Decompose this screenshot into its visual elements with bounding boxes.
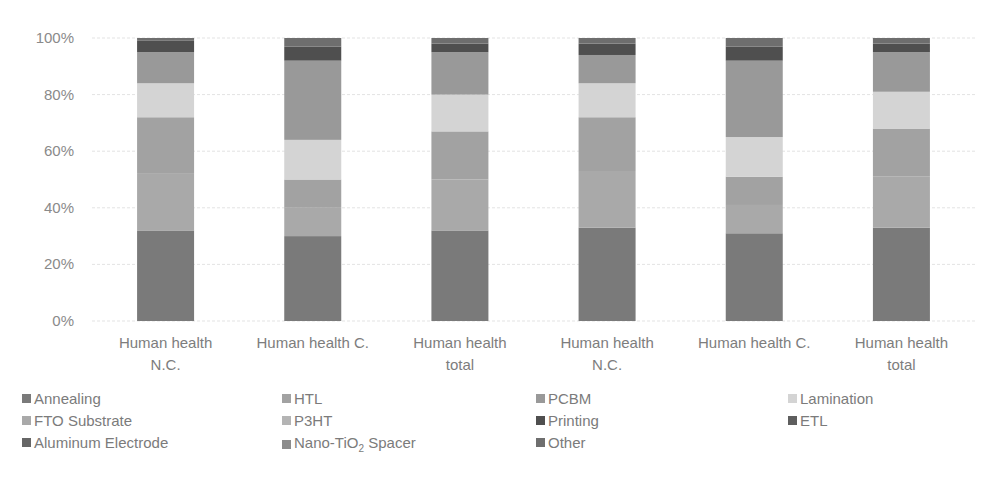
legend-swatch xyxy=(536,416,545,425)
bar-segment-fto-substrate xyxy=(284,208,341,236)
legend-label-text: FTO Substrate xyxy=(34,412,132,429)
bar-segment-other xyxy=(726,38,783,46)
bar-segment-annealing xyxy=(137,230,194,321)
bar-segment-lamination xyxy=(726,137,783,177)
legend-item: P3HT xyxy=(282,412,332,429)
legend-swatch xyxy=(22,416,31,425)
legend-item: HTL xyxy=(282,390,322,407)
legend-label-text: PCBM xyxy=(548,390,591,407)
legend-label: HTL xyxy=(294,390,322,407)
bar-segment-lamination xyxy=(431,95,488,132)
legend-item: ETL xyxy=(788,412,828,429)
bar-segment-lamination xyxy=(579,83,636,117)
bar-segment-fto-substrate xyxy=(726,205,783,233)
bar-segment-printing xyxy=(137,41,194,52)
bar-segment-printing xyxy=(726,46,783,60)
bar-segment-pcbm xyxy=(579,55,636,83)
bar-segment-annealing xyxy=(873,228,930,321)
bar-segment-annealing xyxy=(284,236,341,321)
y-tick-label: 40% xyxy=(44,199,74,216)
legend-swatch xyxy=(282,416,291,425)
bar-segment-htl xyxy=(431,131,488,179)
bar-segment-htl xyxy=(579,117,636,171)
legend-label-text: P3HT xyxy=(294,412,332,429)
bar-segment-other xyxy=(873,38,930,44)
bar-stack xyxy=(431,38,488,321)
legend-label: Aluminum Electrode xyxy=(34,434,168,451)
bar-segment-printing xyxy=(873,44,930,52)
bar-stack xyxy=(137,38,194,321)
y-tick-label: 60% xyxy=(44,142,74,159)
legend-swatch xyxy=(536,394,545,403)
bar-stack xyxy=(284,38,341,321)
x-tick-label: Human health C. xyxy=(698,334,811,351)
legend-swatch xyxy=(282,440,291,449)
x-tick-label: Human health xyxy=(560,334,653,351)
bar-segment-other xyxy=(431,38,488,44)
legend-swatch xyxy=(22,394,31,403)
legend-item: Annealing xyxy=(22,390,101,407)
legend-item: Other xyxy=(536,434,586,451)
x-tick-label: N.C. xyxy=(592,356,622,373)
legend-label: PCBM xyxy=(548,390,591,407)
legend-item: FTO Substrate xyxy=(22,412,132,429)
legend-label-suffix: Spacer xyxy=(364,434,416,451)
legend-label: ETL xyxy=(800,412,828,429)
legend-swatch xyxy=(788,394,797,403)
bar-segment-other xyxy=(579,38,636,44)
bar-segment-lamination xyxy=(873,92,930,129)
x-tick-label: Human health xyxy=(119,334,212,351)
legend-label: Annealing xyxy=(34,390,101,407)
bar-stack xyxy=(873,38,930,321)
bar-stack xyxy=(726,38,783,321)
bar-segment-htl xyxy=(137,117,194,174)
chart-legend: AnnealingHTLPCBMLaminationFTO SubstrateP… xyxy=(0,390,991,460)
y-tick-label: 20% xyxy=(44,255,74,272)
legend-label-text: HTL xyxy=(294,390,322,407)
stacked-bar-chart: 0%20%40%60%80%100%Human healthN.C.Human … xyxy=(0,0,991,481)
legend-label-text: Other xyxy=(548,434,586,451)
legend-label: Lamination xyxy=(800,390,873,407)
legend-label-text: Printing xyxy=(548,412,599,429)
bar-segment-htl xyxy=(284,180,341,208)
legend-label: P3HT xyxy=(294,412,332,429)
y-tick-label: 80% xyxy=(44,86,74,103)
legend-label: Other xyxy=(548,434,586,451)
bar-segment-fto-substrate xyxy=(873,177,930,228)
y-tick-label: 100% xyxy=(36,29,74,46)
y-tick-label: 0% xyxy=(52,312,74,329)
legend-swatch xyxy=(788,416,797,425)
x-tick-label: total xyxy=(446,356,474,373)
bar-segment-fto-substrate xyxy=(137,174,194,231)
bar-segment-pcbm xyxy=(726,61,783,137)
legend-label-text: Nano-TiO xyxy=(294,434,358,451)
legend-label: FTO Substrate xyxy=(34,412,132,429)
legend-label-text: Aluminum Electrode xyxy=(34,434,168,451)
x-tick-label: Human health xyxy=(855,334,948,351)
bar-segment-pcbm xyxy=(431,52,488,94)
bar-segment-annealing xyxy=(431,230,488,321)
chart-plot-area: 0%20%40%60%80%100%Human healthN.C.Human … xyxy=(0,0,991,390)
legend-label-text: Annealing xyxy=(34,390,101,407)
legend-swatch xyxy=(282,394,291,403)
bar-segment-htl xyxy=(873,129,930,177)
x-tick-label: total xyxy=(887,356,915,373)
legend-item: PCBM xyxy=(536,390,591,407)
legend-item: Printing xyxy=(536,412,599,429)
bar-segment-other xyxy=(284,38,341,46)
legend-label-text: ETL xyxy=(800,412,828,429)
bar-segment-lamination xyxy=(284,140,341,180)
legend-item: Lamination xyxy=(788,390,873,407)
x-tick-label: Human health C. xyxy=(256,334,369,351)
bar-segment-pcbm xyxy=(137,52,194,83)
bar-segment-other xyxy=(137,38,194,41)
bar-segment-fto-substrate xyxy=(431,180,488,231)
legend-swatch xyxy=(536,438,545,447)
legend-label: Printing xyxy=(548,412,599,429)
legend-item: Nano-TiO2 Spacer xyxy=(282,434,416,454)
bar-segment-printing xyxy=(579,44,636,55)
bar-segment-fto-substrate xyxy=(579,171,636,228)
bar-segment-pcbm xyxy=(284,61,341,140)
bar-stack xyxy=(579,38,636,321)
bar-segment-pcbm xyxy=(873,52,930,92)
